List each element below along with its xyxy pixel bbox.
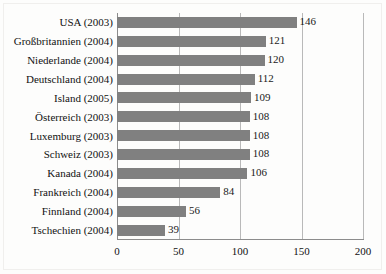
bar	[117, 225, 165, 236]
bar-value-label: 106	[250, 166, 267, 179]
category-label: Island (2005)	[0, 92, 113, 105]
bar	[117, 149, 250, 160]
category-label: Finnland (2004)	[0, 205, 113, 218]
bar-value-label: 112	[258, 72, 274, 85]
bar	[117, 187, 220, 198]
bar	[117, 111, 250, 122]
bar-value-label: 121	[269, 34, 286, 47]
bar-value-label: 120	[268, 53, 285, 66]
x-tick-label: 50	[173, 244, 184, 258]
bar-value-label: 108	[253, 147, 270, 160]
category-label: Österreich (2003)	[0, 111, 113, 124]
bar-value-label: 108	[253, 129, 270, 142]
plot-area: 146121120112109108108108106845639	[117, 13, 363, 240]
category-label: Luxemburg (2003)	[0, 130, 113, 143]
x-tick-label: 100	[232, 244, 249, 258]
x-tick-label: 150	[293, 244, 310, 258]
bar-row: 84	[117, 183, 363, 202]
x-tick-label: 200	[355, 244, 372, 258]
bar	[117, 130, 250, 141]
bar	[117, 74, 255, 85]
bar-row: 108	[117, 108, 363, 127]
bar-row: 146	[117, 13, 363, 32]
bar-row: 120	[117, 51, 363, 70]
bar-chart: 146121120112109108108108106845639 USA (2…	[0, 0, 386, 274]
category-label: Tschechien (2004)	[0, 224, 113, 237]
bar-value-label: 108	[253, 110, 270, 123]
category-label: USA (2003)	[0, 16, 113, 29]
bar-row: 39	[117, 221, 363, 240]
bar-value-label: 56	[189, 204, 200, 217]
bar	[117, 206, 186, 217]
bar-value-label: 146	[300, 15, 317, 28]
x-axis-line	[117, 239, 364, 240]
bar	[117, 36, 266, 47]
x-axis-tick-labels: 050100150200	[117, 244, 363, 260]
category-axis-labels: USA (2003)Großbritannien (2004)Niederlan…	[0, 13, 113, 240]
bar	[117, 168, 247, 179]
bar-row: 108	[117, 127, 363, 146]
bar-value-label: 109	[254, 91, 271, 104]
bar-row: 109	[117, 89, 363, 108]
category-label: Niederlande (2004)	[0, 54, 113, 67]
category-label: Schweiz (2003)	[0, 148, 113, 161]
bar	[117, 92, 251, 103]
bar-value-label: 84	[223, 185, 234, 198]
category-label: Frankreich (2004)	[0, 186, 113, 199]
bar-row: 112	[117, 70, 363, 89]
gridline-200	[363, 13, 364, 240]
bar-rows: 146121120112109108108108106845639	[117, 13, 363, 240]
bar-row: 108	[117, 145, 363, 164]
category-label: Kanada (2004)	[0, 167, 113, 180]
bar	[117, 17, 297, 28]
bar-row: 56	[117, 202, 363, 221]
category-label: Deutschland (2004)	[0, 73, 113, 86]
bar-row: 106	[117, 164, 363, 183]
x-tick-label: 0	[114, 244, 120, 258]
category-label: Großbritannien (2004)	[0, 35, 113, 48]
bar-value-label: 39	[168, 223, 179, 236]
bar-row: 121	[117, 32, 363, 51]
bar	[117, 55, 265, 66]
